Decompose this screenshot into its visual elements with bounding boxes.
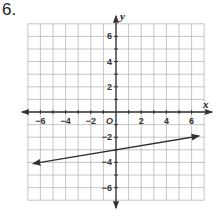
x-tick-label: −2 [86, 116, 96, 126]
y-tick-label: −6 [102, 183, 112, 193]
y-tick-label: −2 [102, 132, 112, 142]
y-tick-label: 4 [107, 57, 112, 67]
y-axis-label: y [118, 10, 125, 22]
x-tick-label: −4 [60, 116, 70, 126]
x-axis-label: x [202, 98, 209, 110]
coordinate-plane: −6−4−2246642−2−4−6 x y O [0, 0, 220, 216]
x-tick-label: 6 [189, 116, 194, 126]
origin-label: O [106, 116, 113, 126]
y-tick-label: 2 [107, 82, 112, 92]
x-tick-label: 4 [164, 116, 169, 126]
y-tick-label: 6 [107, 31, 112, 41]
axes [22, 16, 212, 208]
y-tick-label: −4 [102, 157, 112, 167]
x-tick-label: 2 [139, 116, 144, 126]
x-tick-label: −6 [35, 116, 45, 126]
